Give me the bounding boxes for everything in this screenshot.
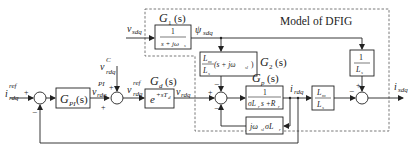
svg-text:rdq: rdq [133, 90, 143, 98]
svg-text:m: m [208, 59, 212, 64]
v-pi-label: v PI rdq [92, 80, 107, 99]
cross-coupling-block: jω sl σL r [246, 117, 283, 134]
gd-block: e +sT d [145, 89, 174, 108]
cross-feedback-in-line [284, 98, 290, 126]
svg-text:rdq: rdq [294, 88, 304, 96]
gd-title: G d (s) [150, 74, 177, 90]
svg-text:σL: σL [248, 99, 256, 108]
svg-text:(s): (s) [275, 56, 287, 69]
cross-feedback-out-line [221, 105, 246, 126]
svg-text:jω: jω [249, 122, 258, 131]
inv-ls-block: 1 L s [350, 50, 374, 76]
svg-text:s: s [184, 43, 186, 48]
svg-text:G: G [260, 55, 269, 69]
sum3-minus-bottom: − [214, 103, 219, 113]
sum1-plus: + [24, 88, 29, 97]
i-rdq-label: i rdq [290, 83, 304, 96]
svg-text:ref: ref [9, 82, 18, 90]
sum1-minus: − [32, 107, 37, 117]
svg-text:ψ: ψ [195, 24, 202, 35]
svg-text:v: v [127, 84, 132, 95]
v-ref-label: v ref rdq [127, 79, 143, 98]
svg-text:(s + jω: (s + jω [214, 60, 236, 69]
lm-ls-block: L m L s [312, 86, 334, 110]
sum-junction-3 [215, 92, 227, 104]
g2-block: L m L s (s + jω sl ) [200, 52, 257, 76]
svg-text:sdq: sdq [203, 29, 213, 37]
svg-text:G: G [60, 92, 69, 106]
svg-text:PI: PI [97, 80, 105, 88]
svg-text:e: e [150, 93, 155, 105]
svg-text:m: m [322, 93, 326, 98]
svg-text:r: r [258, 104, 260, 109]
svg-text:σL: σL [265, 122, 274, 131]
sum-junction-1 [34, 92, 46, 104]
svg-text:ref: ref [133, 79, 142, 87]
svg-text:v: v [100, 61, 105, 72]
svg-text:rdq: rdq [106, 68, 116, 76]
svg-text:r: r [279, 127, 281, 132]
v-rdq-label: v rdq [176, 86, 191, 99]
svg-text:rdq: rdq [97, 91, 107, 99]
svg-text:r: r [278, 104, 280, 109]
gp-block: 1 σL r s +R r [246, 86, 283, 109]
svg-text:i: i [5, 88, 8, 99]
sum2-plus-bottom: + [101, 103, 106, 112]
svg-text:(s): (s) [76, 93, 88, 106]
svg-text:rdq: rdq [181, 91, 191, 99]
svg-text:sdq: sdq [132, 28, 142, 36]
i-sdq-label: i sdq [394, 81, 408, 94]
sum2-plus-top: + [109, 83, 114, 92]
svg-text:i: i [290, 83, 293, 94]
psi-sdq-label: ψ sdq [195, 24, 213, 37]
sum3-minus-top: − [214, 79, 219, 89]
svg-text:G: G [150, 74, 159, 88]
sum-junction-2 [111, 92, 123, 104]
svg-text:1: 1 [263, 88, 267, 97]
svg-text:s: s [208, 71, 210, 76]
sum4-minus: − [349, 86, 354, 96]
svg-text:+sT: +sT [156, 91, 168, 99]
sum4-plus: + [356, 81, 361, 90]
v-c-label: v C rdq [100, 56, 116, 76]
svg-text:s +R: s +R [261, 99, 276, 108]
gpi-block: G PI (s) [56, 88, 90, 108]
svg-text:(s): (s) [174, 12, 186, 25]
svg-text:s: s [322, 105, 324, 110]
svg-text:1: 1 [171, 27, 175, 36]
svg-text:s: s [361, 70, 363, 75]
svg-text:i: i [394, 81, 397, 92]
g2-title: G 2 (s) [260, 55, 287, 71]
svg-text:G: G [159, 11, 168, 25]
svg-text:G: G [252, 71, 261, 85]
svg-text:sdq: sdq [398, 86, 408, 94]
gp-title: G p (s) [252, 71, 279, 87]
sum3-plus: + [208, 88, 213, 97]
svg-text:C: C [106, 56, 111, 64]
sum-junction-4 [356, 92, 368, 104]
svg-text:(s): (s) [267, 72, 279, 85]
dfig-model-label: Model of DFIG [280, 15, 352, 27]
g1-block: 1 s + jω s [155, 25, 191, 49]
svg-text:s + jω: s + jω [161, 40, 179, 48]
v-sdq-label: v sdq [127, 23, 142, 36]
svg-text:1: 1 [359, 53, 363, 62]
svg-text:2: 2 [269, 63, 273, 71]
dfig-control-block-diagram: Model of DFIG i ref rdq + − G PI (s) v P… [0, 0, 417, 150]
i-ref-label: i ref rdq [5, 82, 19, 102]
